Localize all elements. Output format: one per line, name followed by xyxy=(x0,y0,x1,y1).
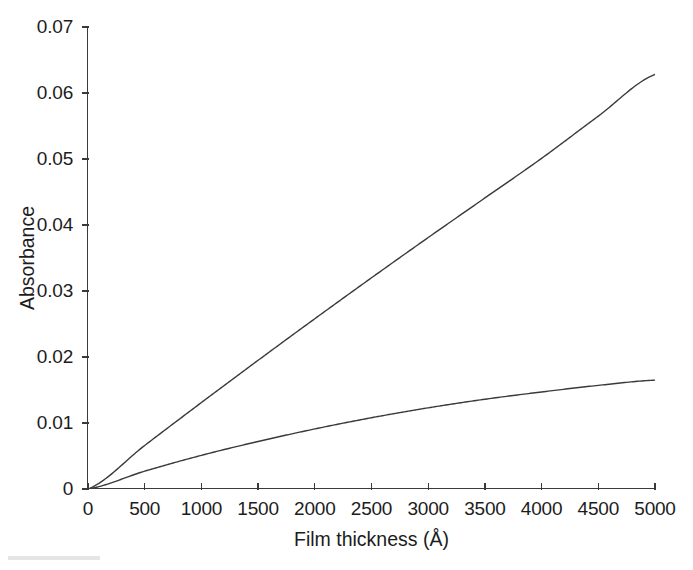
y-tick-mark xyxy=(82,422,89,423)
x-tick-mark xyxy=(484,483,485,490)
x-tick-mark xyxy=(314,483,315,490)
x-tick-label: 1500 xyxy=(237,499,278,518)
plot-area xyxy=(88,27,655,489)
y-tick-mark xyxy=(82,26,89,27)
x-tick-label: 0 xyxy=(83,499,93,518)
x-tick-label: 3500 xyxy=(464,499,505,518)
x-tick-label: 2500 xyxy=(351,499,392,518)
y-tick-label: 0.06 xyxy=(0,83,73,102)
x-tick-label: 1000 xyxy=(181,499,222,518)
scan-artifact xyxy=(8,556,100,560)
y-axis-title: Absorbance xyxy=(17,138,37,378)
x-tick-label: 500 xyxy=(129,499,160,518)
x-tick-mark xyxy=(598,483,599,490)
x-tick-label: 5000 xyxy=(634,499,675,518)
y-tick-mark xyxy=(82,92,89,93)
series-line-lower-curve xyxy=(88,380,655,489)
y-tick-mark xyxy=(82,356,89,357)
x-tick-mark xyxy=(87,483,88,490)
y-axis-spine xyxy=(87,27,88,490)
y-tick-label: 0.01 xyxy=(0,413,73,432)
x-axis-title: Film thickness (Å) xyxy=(88,528,655,550)
x-tick-mark xyxy=(257,483,258,490)
x-tick-label: 4500 xyxy=(578,499,619,518)
y-tick-label: 0 xyxy=(0,479,73,498)
x-tick-label: 2000 xyxy=(294,499,335,518)
figure-canvas: 00.010.020.030.040.050.060.0705001000150… xyxy=(0,0,693,570)
x-tick-mark xyxy=(201,483,202,490)
x-tick-mark xyxy=(654,483,655,490)
y-tick-mark xyxy=(82,224,89,225)
x-tick-mark xyxy=(144,483,145,490)
x-tick-mark xyxy=(428,483,429,490)
x-tick-label: 4000 xyxy=(521,499,562,518)
series-line-upper-curve xyxy=(88,75,655,489)
plot-svg xyxy=(88,27,655,489)
y-tick-label: 0.07 xyxy=(0,17,73,36)
y-tick-mark xyxy=(82,158,89,159)
y-tick-mark xyxy=(82,290,89,291)
x-tick-mark xyxy=(541,483,542,490)
x-tick-label: 3000 xyxy=(407,499,448,518)
x-tick-mark xyxy=(371,483,372,490)
